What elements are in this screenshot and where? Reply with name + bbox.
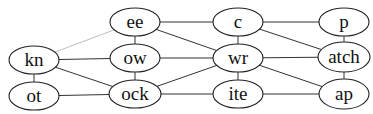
node-label: c bbox=[234, 11, 242, 32]
node-wr: wr bbox=[213, 44, 263, 72]
node-label: ap bbox=[335, 83, 353, 104]
node-label: atch bbox=[328, 46, 360, 67]
node-label: wr bbox=[228, 47, 249, 68]
node-p: p bbox=[319, 8, 369, 36]
node-ow: ow bbox=[110, 44, 160, 72]
edges-layer bbox=[34, 22, 344, 96]
node-ite: ite bbox=[213, 80, 263, 108]
node-ot: ot bbox=[9, 82, 59, 110]
node-c: c bbox=[213, 8, 263, 36]
node-label: kn bbox=[25, 49, 45, 70]
node-label: ite bbox=[229, 83, 248, 104]
node-label: ow bbox=[123, 47, 147, 68]
node-kn: kn bbox=[9, 46, 59, 74]
node-ap: ap bbox=[319, 79, 369, 109]
node-label: ot bbox=[27, 85, 43, 106]
node-label: ock bbox=[121, 83, 149, 104]
node-label: ee bbox=[127, 11, 144, 32]
word-fragment-graph: knoteeowockcwritepatchap bbox=[0, 0, 373, 114]
node-label: p bbox=[339, 11, 349, 32]
node-atch: atch bbox=[318, 42, 370, 72]
node-ee: ee bbox=[110, 8, 160, 36]
node-ock: ock bbox=[109, 80, 161, 108]
